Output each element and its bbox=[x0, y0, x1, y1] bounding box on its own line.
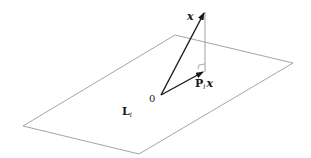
plane-label: Li bbox=[122, 106, 132, 119]
projection-diagram: x 0 Pix Li bbox=[0, 0, 311, 158]
projection-subscript: i bbox=[203, 83, 205, 91]
plane-label-subscript: i bbox=[130, 111, 132, 119]
projection-variable: x bbox=[207, 77, 214, 90]
plane-label-main: L bbox=[122, 105, 130, 118]
origin-label: 0 bbox=[149, 94, 155, 104]
diagram-graphics bbox=[0, 0, 311, 158]
subspace-plane bbox=[23, 35, 293, 154]
vector-x-label: x bbox=[187, 11, 194, 22]
projection-label: Pix bbox=[195, 78, 213, 91]
right-angle-marker bbox=[198, 64, 205, 69]
